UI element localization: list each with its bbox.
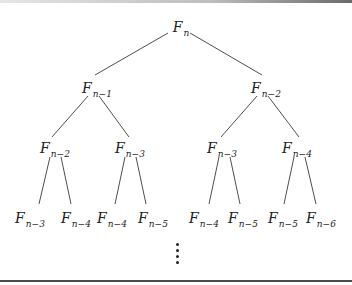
- tree-node: Fn−4: [282, 141, 312, 155]
- node-subscript: n−3: [218, 149, 237, 159]
- node-subscript: n−1: [93, 89, 112, 99]
- tree-edge: [95, 33, 168, 75]
- tree-edge: [115, 157, 125, 204]
- bottom-border-rule: [0, 280, 352, 282]
- tree-node: Fn−3: [207, 141, 237, 155]
- tree-edge: [268, 96, 299, 137]
- node-subscript: n−2: [51, 149, 70, 159]
- tree-node: Fn−2: [251, 81, 281, 95]
- dot: [176, 243, 179, 246]
- node-base: F: [115, 140, 125, 156]
- node-subscript: n−4: [293, 149, 312, 159]
- node-subscript: n−2: [262, 89, 281, 99]
- tree-node: Fn−5: [228, 211, 258, 225]
- node-base: F: [189, 210, 199, 226]
- tree-edge: [230, 157, 240, 204]
- tree-node: Fn: [173, 20, 190, 34]
- node-base: F: [268, 210, 278, 226]
- tree-edge: [136, 157, 146, 204]
- node-base: F: [97, 210, 107, 226]
- tree-node: Fn−4: [189, 211, 219, 225]
- node-base: F: [138, 210, 148, 226]
- tree-node: Fn−2: [40, 141, 70, 155]
- tree-node: Fn−5: [138, 211, 168, 225]
- tree-edge: [52, 96, 88, 137]
- vertical-ellipsis-continuation: [176, 243, 179, 267]
- node-subscript: n−4: [108, 219, 127, 229]
- tree-edge: [39, 157, 50, 204]
- tree-edge: [99, 96, 129, 137]
- node-subscript: n−4: [200, 219, 219, 229]
- tree-node: Fn−3: [115, 141, 145, 155]
- dot: [176, 249, 179, 252]
- tree-node: Fn−5: [268, 211, 298, 225]
- node-base: F: [82, 80, 92, 96]
- node-base: F: [61, 210, 71, 226]
- node-subscript: n−3: [26, 219, 45, 229]
- node-base: F: [306, 210, 316, 226]
- tree-node: Fn−6: [306, 211, 336, 225]
- node-base: F: [173, 19, 183, 35]
- tree-node: Fn−1: [82, 81, 112, 95]
- node-base: F: [207, 140, 217, 156]
- node-subscript: n−5: [279, 219, 298, 229]
- tree-edge: [61, 157, 71, 204]
- node-subscript: n−5: [149, 219, 168, 229]
- tree-edge: [221, 96, 257, 137]
- tree-edge: [209, 157, 219, 204]
- node-subscript: n: [183, 28, 189, 38]
- tree-node: Fn−3: [15, 211, 45, 225]
- dot: [176, 261, 179, 264]
- node-base: F: [228, 210, 238, 226]
- node-subscript: n−3: [126, 149, 145, 159]
- tree-node: Fn−4: [61, 211, 91, 225]
- tree-edge: [190, 33, 262, 75]
- node-subscript: n−4: [72, 219, 91, 229]
- node-subscript: n−5: [239, 219, 258, 229]
- node-subscript: n−6: [317, 219, 336, 229]
- node-base: F: [40, 140, 50, 156]
- node-base: F: [15, 210, 25, 226]
- tree-edge: [305, 157, 316, 204]
- tree-edge: [284, 157, 294, 204]
- node-base: F: [282, 140, 292, 156]
- node-base: F: [251, 80, 261, 96]
- dot: [176, 255, 179, 258]
- tree-node: Fn−4: [97, 211, 127, 225]
